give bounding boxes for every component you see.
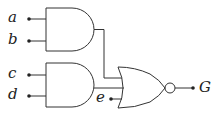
input-dot-c (27, 73, 31, 77)
input-dot-b (27, 39, 31, 43)
and-gate-2 (46, 63, 94, 107)
input-dot-d (27, 94, 31, 98)
nor-bubble (165, 83, 175, 93)
input-dot-a (27, 17, 31, 21)
input-dot-e (109, 97, 113, 101)
nor-gate (118, 67, 165, 108)
output-dot-g (191, 86, 195, 90)
label-e: e (96, 90, 105, 105)
and-gate-1 (46, 8, 94, 51)
label-d: d (8, 87, 18, 102)
wire-and1-out (94, 30, 122, 79)
circuit-diagram (0, 0, 221, 115)
label-c: c (8, 66, 16, 81)
label-a: a (8, 10, 17, 25)
label-g: G (199, 80, 211, 95)
label-b: b (8, 32, 18, 47)
